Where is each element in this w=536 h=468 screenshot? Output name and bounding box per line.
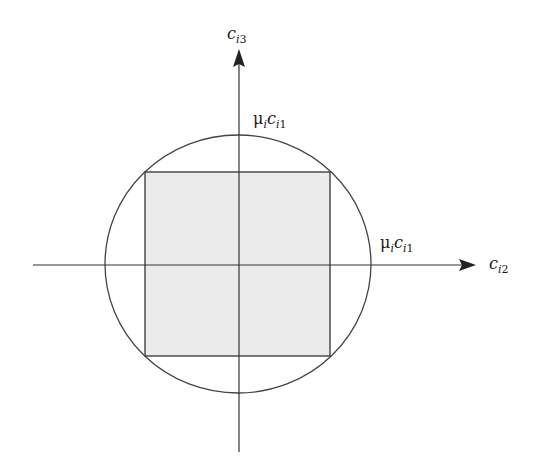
vertical-axis-label: ci3 [227,26,247,45]
horizontal-axis-label: ci2 [489,256,509,275]
diagram-canvas: ci3 μici1 μici1 ci2 [0,0,536,468]
top-radius-label: μici1 [253,111,286,130]
diagram-svg [0,0,536,468]
right-radius-label: μici1 [380,235,413,254]
inscribed-square [145,172,330,356]
